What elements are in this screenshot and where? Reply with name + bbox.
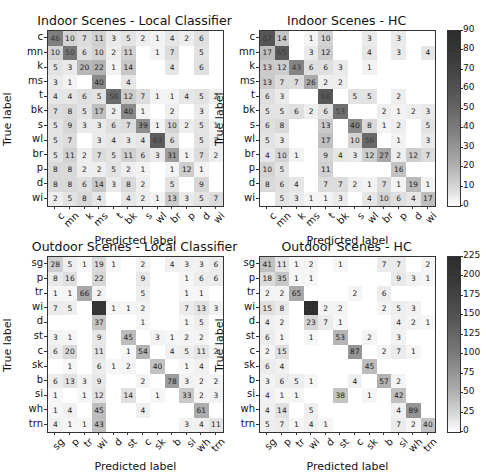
matrix-cell: 5: [194, 315, 209, 330]
matrix-cell: [289, 315, 304, 330]
matrix-cell: 1: [333, 315, 348, 330]
panel-title: Indoor Scenes - HC: [239, 13, 454, 28]
colorbar-tick-label: 225: [463, 250, 480, 260]
matrix-cell: 9: [92, 330, 107, 345]
matrix-cell: 65: [275, 46, 290, 61]
matrix-cell: 2: [92, 162, 107, 177]
matrix-cell: 6: [318, 104, 333, 119]
y-tick-label: br: [13, 148, 43, 159]
matrix-cell: 2: [318, 75, 333, 90]
matrix-cell: 3: [92, 119, 107, 134]
matrix-cell: 3: [106, 31, 121, 46]
x-tick-label: st: [125, 436, 139, 450]
matrix-cell: [362, 345, 377, 360]
matrix-cell: [304, 286, 319, 301]
x-tick-mark: [266, 432, 267, 435]
matrix-cell: 5: [48, 119, 63, 134]
matrix-cell: [121, 403, 136, 418]
x-tick-mark: [310, 432, 311, 435]
matrix-cell: 1: [106, 359, 121, 374]
matrix-cell: [209, 31, 224, 46]
matrix-cell: [421, 162, 436, 177]
matrix-cell: 4: [304, 418, 319, 433]
x-tick-label: br: [380, 210, 395, 225]
colorbar-tick-mark: [460, 295, 463, 296]
x-tick-label: wl: [365, 210, 381, 226]
y-tick-label: sg: [225, 257, 255, 268]
matrix-cell: 4: [289, 177, 304, 192]
matrix-cell: 5: [304, 403, 319, 418]
y-tick-label: t: [13, 89, 43, 100]
matrix-cell: 2: [194, 374, 209, 389]
matrix-cell: 3: [194, 257, 209, 272]
colorbar-tick-mark: [460, 373, 463, 374]
y-tick-label: p: [225, 272, 255, 283]
x-tick-label: wi: [423, 210, 439, 226]
matrix-cell: 3: [289, 192, 304, 207]
matrix-cell: [165, 75, 180, 90]
matrix-cell: 8: [77, 192, 92, 207]
matrix-cell: 7: [421, 148, 436, 163]
matrix-cell: [136, 75, 151, 90]
x-axis-label: Predicted label: [95, 460, 177, 473]
y-tick-mark: [44, 125, 47, 126]
matrix-cell: [136, 359, 151, 374]
matrix-cell: 14: [121, 60, 136, 75]
matrix-cell: [362, 104, 377, 119]
x-tick-mark: [296, 206, 297, 209]
y-tick-mark: [256, 424, 259, 425]
matrix-cell: 67: [260, 31, 275, 46]
matrix-cell: [289, 89, 304, 104]
matrix-cell: 5: [275, 192, 290, 207]
matrix-cell: 7: [275, 75, 290, 90]
matrix-cell: 1: [150, 46, 165, 61]
matrix-cell: 4: [406, 192, 421, 207]
colorbar-tick-label: 30: [463, 141, 474, 151]
colorbar-tick-mark: [460, 166, 463, 167]
matrix-cell: [77, 359, 92, 374]
y-tick-mark: [256, 278, 259, 279]
matrix-cell: 3: [179, 374, 194, 389]
matrix-cell: [348, 272, 363, 287]
matrix-cell: [318, 257, 333, 272]
matrix-cell: [106, 330, 121, 345]
matrix-cell: 213: [92, 301, 107, 316]
x-tick-label: wl: [153, 210, 169, 226]
matrix-cell: 4: [165, 345, 180, 360]
y-tick-label: c: [225, 31, 255, 42]
matrix-cell: 2: [318, 301, 333, 316]
matrix-cell: 3: [421, 133, 436, 148]
y-tick-label: sk: [13, 359, 43, 370]
matrix-cell: 12: [275, 60, 290, 75]
matrix-cell: 2: [348, 177, 363, 192]
matrix-cell: [150, 418, 165, 433]
matrix-cell: 7: [391, 257, 406, 272]
matrix-cell: 6: [194, 272, 209, 287]
matrix-cell: 4: [391, 403, 406, 418]
x-tick-mark: [186, 432, 187, 435]
matrix-cell: [77, 345, 92, 360]
colorbar-tick-mark: [460, 314, 463, 315]
matrix-cell: [77, 330, 92, 345]
x-tick-label: wi: [211, 210, 227, 226]
matrix-cell: 14: [275, 31, 290, 46]
matrix-cell: 56: [362, 133, 377, 148]
matrix-cell: 7: [179, 301, 194, 316]
colorbar-tick-label: 40: [463, 121, 474, 131]
y-tick-label: trn: [225, 418, 255, 429]
matrix-cell: 10: [92, 46, 107, 61]
matrix-cell: 1: [289, 388, 304, 403]
y-tick-label: d: [13, 315, 43, 326]
matrix-cell: 3: [63, 60, 78, 75]
matrix-cell: 65: [289, 286, 304, 301]
matrix-cell: [391, 60, 406, 75]
matrix-cell: [179, 403, 194, 418]
y-tick-label: mn: [13, 46, 43, 57]
matrix-cell: 4: [391, 315, 406, 330]
matrix-cell: 18: [260, 272, 275, 287]
matrix-cell: [209, 162, 224, 177]
matrix-cell: 11: [121, 148, 136, 163]
x-tick-mark: [339, 432, 340, 435]
x-tick-mark: [98, 206, 99, 209]
matrix-cell: [106, 272, 121, 287]
